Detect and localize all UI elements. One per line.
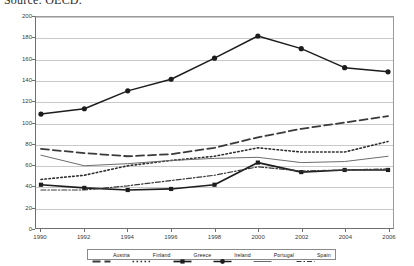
data-point: [38, 111, 43, 116]
data-point: [212, 56, 217, 61]
legend-swatch-ireland: [213, 251, 232, 258]
x-axis-tick-mark: [127, 229, 128, 232]
y-axis-tick-label: 100: [4, 120, 32, 126]
x-axis-tick-label: 2002: [282, 234, 322, 240]
line-chart: 020406080100120140160180200 199019921994…: [0, 12, 414, 244]
legend-swatch-finland: [132, 251, 151, 258]
data-point: [256, 161, 260, 165]
data-point: [169, 77, 174, 82]
data-point: [385, 69, 390, 74]
legend-item-greece[interactable]: Greece: [172, 250, 213, 259]
x-axis-tick-label: 1998: [195, 234, 235, 240]
data-point: [39, 183, 43, 187]
x-axis-tick-label: 1992: [64, 234, 104, 240]
x-axis-tick-label: 2004: [325, 234, 365, 240]
y-axis-tick-label: 200: [4, 13, 32, 19]
data-point: [255, 33, 260, 38]
source-caption: Source: OECD.: [4, 0, 82, 8]
data-point: [299, 46, 304, 51]
x-axis-tick-label: 1996: [151, 234, 191, 240]
series-layer: [36, 17, 393, 228]
legend-item-ireland[interactable]: Ireland: [212, 250, 252, 259]
x-axis-tick-mark: [389, 229, 390, 232]
x-axis-tick-mark: [302, 229, 303, 232]
y-axis-tick-labels: 020406080100120140160180200: [0, 16, 32, 229]
series-line: [41, 116, 388, 156]
legend-swatch-austria: [92, 251, 111, 258]
x-axis-tick-mark: [258, 229, 259, 232]
y-axis-tick-label: 20: [4, 205, 32, 211]
data-point: [125, 88, 130, 93]
legend-item-portugal[interactable]: Portugal: [252, 250, 295, 259]
x-axis-tick-mark: [215, 229, 216, 232]
data-point: [82, 106, 87, 111]
legend-label: Portugal: [274, 252, 294, 258]
legend-label: Ireland: [234, 252, 251, 258]
legend-label: Spain: [317, 252, 331, 258]
legend-swatch-greece: [173, 251, 192, 258]
y-axis-tick-label: 0: [4, 226, 32, 232]
y-axis-tick-label: 80: [4, 141, 32, 147]
plot-area: [35, 16, 394, 229]
x-axis-tick-mark: [345, 229, 346, 232]
legend-item-finland[interactable]: Finland: [131, 250, 172, 259]
y-axis-tick-label: 120: [4, 98, 32, 104]
legend-label: Greece: [194, 252, 212, 258]
series-line: [41, 36, 388, 114]
data-point: [342, 65, 347, 70]
y-axis-tick-label: 60: [4, 162, 32, 168]
x-axis-tick-label: 2006: [369, 234, 409, 240]
legend-swatch-spain: [296, 251, 315, 258]
chart-legend: AustriaFinlandGreeceIrelandPortugalSpain: [87, 249, 336, 260]
data-point: [212, 183, 216, 187]
legend-item-spain[interactable]: Spain: [295, 250, 332, 259]
legend-label: Austria: [113, 252, 130, 258]
legend-swatch-portugal: [253, 251, 272, 258]
figure-container: Source: OECD. 02040608010012014016018020…: [0, 0, 414, 266]
x-axis-tick-labels: 199019921994199619982000200220042006: [35, 234, 394, 246]
data-point: [169, 187, 173, 191]
x-axis-tick-mark: [171, 229, 172, 232]
series-ireland: [38, 33, 390, 116]
y-axis-tick-label: 180: [4, 34, 32, 40]
x-axis-tick-marks: [35, 229, 394, 233]
x-axis-tick-mark: [84, 229, 85, 232]
x-axis-tick-label: 1994: [107, 234, 147, 240]
y-axis-tick-label: 160: [4, 56, 32, 62]
legend-label: Finland: [153, 252, 171, 258]
x-axis-tick-label: 2000: [238, 234, 278, 240]
x-axis-tick-mark: [40, 229, 41, 232]
legend-item-austria[interactable]: Austria: [91, 250, 131, 259]
data-point: [126, 188, 130, 192]
y-axis-tick-label: 40: [4, 183, 32, 189]
y-axis-tick-label: 140: [4, 77, 32, 83]
series-austria: [41, 116, 388, 156]
x-axis-tick-label: 1990: [20, 234, 60, 240]
